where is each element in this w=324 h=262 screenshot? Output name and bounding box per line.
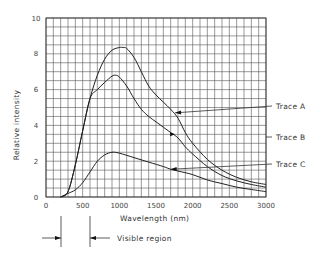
y-axis-label: Relative intensity [12,89,21,160]
x-tick-label: 500 [76,202,89,210]
visible-region-label: Visible region [117,234,172,243]
x-axis-ticks: 050010001500200025003000 [44,202,275,210]
arrowhead-icon [170,132,175,136]
trace-label: Trace C [275,160,306,169]
trace-label: Trace A [275,102,306,111]
trace-annotations: Trace ATrace BTrace C [170,102,306,171]
spectral-intensity-chart: 0246810 050010001500200025003000 Trace A… [0,0,324,262]
x-tick-label: 2000 [184,202,202,210]
arrowhead-left-icon [90,236,96,240]
trace-label: Trace B [275,133,306,142]
x-tick-label: 1000 [110,202,128,210]
x-tick-label: 1500 [147,202,165,210]
x-tick-label: 3000 [257,202,275,210]
plot-grid [46,18,266,197]
leader-line [171,164,272,169]
arrowhead-right-icon [55,236,61,240]
y-tick-label: 10 [32,15,41,23]
x-tick-label: 2500 [220,202,238,210]
y-tick-label: 6 [34,86,39,94]
y-tick-label: 4 [34,122,39,130]
x-axis-label: Wavelength (nm) [120,214,189,223]
y-tick-label: 2 [34,158,38,166]
x-tick-label: 0 [44,202,48,210]
y-tick-label: 8 [34,50,38,58]
leader-line [175,106,272,113]
y-axis-ticks: 0246810 [32,15,41,202]
y-tick-label: 0 [34,194,38,202]
